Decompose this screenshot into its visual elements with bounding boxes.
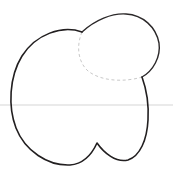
line-drawing-figure — [0, 0, 173, 180]
canvas-background — [0, 0, 173, 180]
drawing-canvas — [0, 0, 173, 180]
